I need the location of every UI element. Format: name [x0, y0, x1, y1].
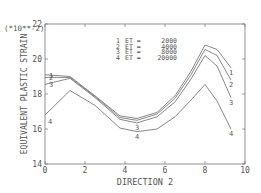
y-tick-label: 16 [32, 125, 42, 134]
series-end-label: 1 [229, 69, 233, 77]
x-tick-label: 6 [163, 166, 168, 175]
x-tick-label: 2 [83, 166, 88, 175]
x-axis-label: DIRECTION 2 [117, 177, 173, 187]
x-tick-label: 8 [203, 166, 208, 175]
series-end-label: 2 [229, 81, 233, 89]
legend-value: 20000 [157, 54, 177, 62]
legend-key: 4 [116, 54, 120, 62]
series-line-3 [45, 56, 231, 123]
legend-label: ET = [125, 54, 141, 62]
series-start-label: 4 [48, 118, 52, 126]
axis-ticks: 02468101416182022 [32, 20, 250, 175]
series-valley-label: 4 [135, 133, 139, 141]
series-valley-label: 3 [135, 124, 139, 132]
strain-line-chart: 02468101416182022 1122333444 1ET =20002E… [0, 0, 261, 193]
x-tick-label: 0 [43, 166, 48, 175]
y-tick-label: 14 [32, 160, 42, 169]
series-end-label: 3 [229, 99, 233, 107]
series-end-label: 4 [229, 130, 233, 138]
y-axis-multiplier: (*10**-2) [4, 24, 45, 33]
y-tick-label: 18 [32, 90, 42, 99]
y-axis-label: EQUIVALENT PLASTIC STRAIN [20, 34, 29, 155]
plot-axes [45, 24, 245, 164]
series-start-label: 3 [49, 81, 53, 89]
plot-frame [45, 24, 245, 164]
legend: 1ET =20002ET =40003ET =80004ET =20000 [116, 37, 177, 62]
series-end-labels: 1122333444 [48, 69, 233, 141]
x-tick-label: 4 [123, 166, 128, 175]
y-tick-label: 20 [32, 55, 42, 64]
x-tick-label: 10 [240, 166, 250, 175]
